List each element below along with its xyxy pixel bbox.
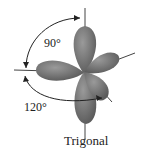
- angle-label-90: 90°: [44, 36, 61, 51]
- angle-label-120: 120°: [24, 100, 47, 115]
- arrowhead-icon: [23, 76, 29, 82]
- trigonal-orbital-diagram: [0, 0, 148, 150]
- arrowhead-icon: [74, 15, 80, 21]
- diagram-title: Trigonal: [64, 133, 108, 149]
- left-lobe: [36, 61, 84, 81]
- arrowhead-icon: [23, 62, 29, 68]
